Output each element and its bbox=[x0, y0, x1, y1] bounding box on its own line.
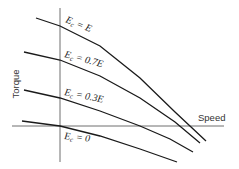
label-ec-equals-0.7e: Ec = 0.7E bbox=[62, 48, 105, 71]
curve-ec-equals-e bbox=[36, 18, 206, 141]
torque-speed-diagram: Torque Speed Ec = E Ec = 0.7E Ec = 0.3E … bbox=[0, 0, 239, 169]
label-ec-equals-0: Ec = 0 bbox=[63, 130, 91, 146]
curve-ec-equals-0 bbox=[22, 121, 177, 162]
torque-axis-label: Torque bbox=[10, 69, 21, 98]
svg-text:Ec = 0.7E: Ec = 0.7E bbox=[62, 48, 105, 71]
curve-ec-equals-0.7e bbox=[24, 52, 200, 143]
label-ec-equals-e: Ec = E bbox=[63, 13, 94, 36]
speed-axis-label: Speed bbox=[198, 112, 225, 123]
curve-ec-equals-0.3e bbox=[24, 90, 193, 152]
label-ec-equals-0.3e: Ec = 0.3E bbox=[62, 86, 104, 107]
svg-text:Ec = 0: Ec = 0 bbox=[63, 130, 91, 146]
svg-text:Ec = E: Ec = E bbox=[63, 13, 94, 36]
svg-text:Ec = 0.3E: Ec = 0.3E bbox=[62, 86, 104, 107]
